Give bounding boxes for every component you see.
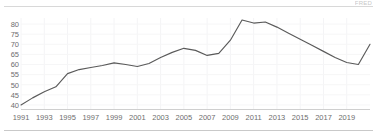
x-axis-tick-label: 1997 [82, 113, 99, 122]
y-axis-tick-label: 40 [11, 101, 19, 110]
x-axis-tick-label: 2011 [246, 113, 262, 122]
x-axis-tick-label: 2003 [152, 113, 169, 122]
x-axis-tick-label: 1999 [106, 113, 123, 122]
y-axis-tick-labels: 404550556065707580 [11, 20, 19, 110]
x-axis-tick-label: 2015 [292, 113, 309, 122]
x-axis-tick-label: 2001 [129, 113, 146, 122]
horizontal-gridlines [21, 24, 370, 105]
x-axis-tick-label: 1995 [59, 113, 76, 122]
x-axis-tick-labels: 1991199319951997199920012003200520072009… [13, 113, 355, 122]
line-chart-svg: 404550556065707580 199119931995199719992… [0, 10, 377, 122]
y-axis-tick-label: 60 [11, 60, 19, 69]
x-axis-tick-label: 2007 [199, 113, 216, 122]
y-axis-tick-label: 80 [11, 20, 19, 29]
y-axis-tick-label: 55 [11, 70, 19, 79]
y-axis-tick-label: 70 [11, 40, 19, 49]
x-axis-tick-label: 2009 [222, 113, 239, 122]
x-axis-tick-label: 2013 [269, 113, 286, 122]
plot-area: 404550556065707580 199119931995199719992… [0, 10, 377, 122]
x-axis-tick-label: 2005 [176, 113, 193, 122]
y-axis-tick-label: 45 [11, 91, 19, 100]
y-axis-tick-label: 65 [11, 50, 19, 59]
y-axis-tick-label: 75 [11, 30, 19, 39]
data-series-line [21, 20, 370, 105]
x-axis-tick-label: 1993 [36, 113, 53, 122]
corner-source-note: FRED [355, 0, 372, 5]
x-axis-tick-label: 1991 [13, 113, 30, 122]
top-divider [4, 6, 373, 7]
x-axis-tick-label: 2019 [338, 113, 355, 122]
vertical-gridlines [21, 18, 347, 109]
x-axis-tick-label: 2017 [315, 113, 332, 122]
y-axis-tick-label: 50 [11, 81, 19, 90]
chart-card: FRED 404550556065707580 1991199319951997… [0, 0, 377, 135]
bottom-divider [4, 130, 373, 131]
